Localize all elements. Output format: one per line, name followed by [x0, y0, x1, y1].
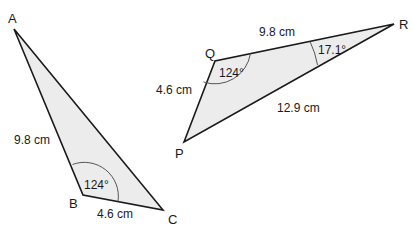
- vertex-label-q: Q: [205, 46, 215, 61]
- side-label-qr: 9.8 cm: [259, 25, 295, 39]
- angle-label-b: 124°: [84, 178, 109, 192]
- vertex-label-c: C: [168, 212, 177, 227]
- triangles-diagram: A B C 9.8 cm 4.6 cm 124° Q P R 9.8 cm 4.…: [0, 0, 414, 227]
- angle-label-r: 17.1°: [318, 43, 346, 57]
- side-label-bc: 4.6 cm: [97, 207, 133, 221]
- triangle-pqr: [184, 24, 394, 142]
- side-label-pq: 4.6 cm: [156, 83, 192, 97]
- side-label-ab: 9.8 cm: [14, 133, 50, 147]
- angle-label-q: 124°: [219, 66, 244, 80]
- vertex-label-a: A: [8, 11, 17, 26]
- vertex-label-p: P: [175, 146, 184, 161]
- side-label-pr: 12.9 cm: [277, 101, 320, 115]
- vertex-label-b: B: [69, 196, 78, 211]
- vertex-label-r: R: [399, 17, 408, 32]
